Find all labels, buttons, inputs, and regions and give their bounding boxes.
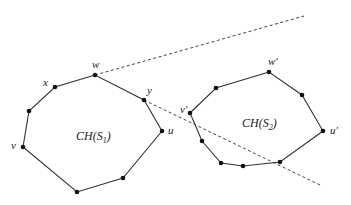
vertex-point: [267, 70, 272, 75]
vertex-label: w': [268, 55, 278, 67]
convex-hull-diagram: wxyuvCH(S1)w'v'u'CH(S2): [0, 0, 351, 205]
vertex-point: [160, 129, 165, 134]
hull-label: CH(S1): [76, 129, 111, 145]
vertex-point: [188, 111, 193, 116]
vertex-label: y: [146, 84, 152, 96]
vertex-point: [200, 139, 205, 144]
vertex-label: v': [180, 103, 188, 115]
vertex-point: [27, 109, 32, 114]
vertex-point: [142, 98, 147, 103]
vertex-label: w: [92, 58, 100, 70]
vertex-point: [241, 164, 246, 169]
vertex-point: [214, 86, 219, 91]
vertex-point: [53, 85, 58, 90]
diagram-canvas: wxyuvCH(S1)w'v'u'CH(S2): [0, 0, 351, 205]
vertex-point: [121, 176, 126, 181]
lower-tangent-line: [144, 100, 322, 186]
hull-s2: w'v'u'CH(S2): [180, 55, 339, 168]
vertex-point: [321, 129, 326, 134]
vertex-point: [278, 160, 283, 165]
hull-s1: wxyuvCH(S1): [11, 58, 174, 194]
vertex-point: [75, 190, 80, 195]
vertex-point: [21, 145, 26, 150]
vertex-point: [93, 73, 98, 78]
vertex-label: u': [330, 124, 339, 136]
vertex-label: u: [168, 124, 174, 136]
vertex-label: x: [42, 76, 48, 88]
vertex-label: v: [11, 139, 16, 151]
vertex-point: [300, 93, 305, 98]
vertex-point: [219, 161, 224, 166]
hull-label: CH(S2): [242, 116, 277, 132]
